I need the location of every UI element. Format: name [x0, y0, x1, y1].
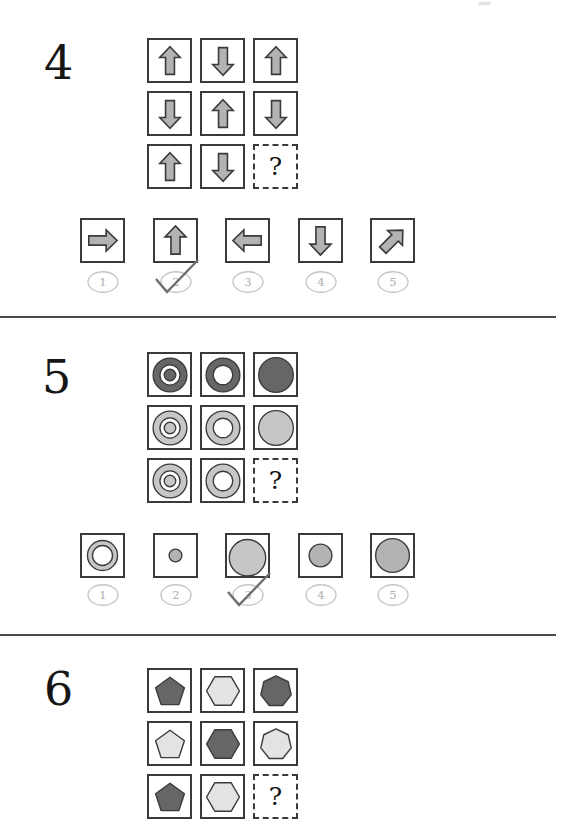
grid-cell-r2c1 — [147, 91, 192, 136]
grid-cell-r3c2 — [200, 458, 245, 503]
hexagon-light-icon — [203, 777, 243, 817]
arrow-down-icon — [203, 41, 243, 81]
question-number: 5 — [42, 354, 71, 400]
hexagon-light-icon — [203, 671, 243, 711]
grid-cell-r1c3 — [253, 38, 298, 83]
option-3-box[interactable] — [225, 533, 270, 578]
hexagon-dark-icon — [203, 724, 243, 764]
grid-cell-r3c1 — [147, 144, 192, 189]
disc-large-light-icon — [227, 535, 268, 576]
heptagon-dark-icon — [256, 671, 296, 711]
option-4-badge[interactable]: 4 — [304, 583, 338, 607]
grid-cell-r3c1 — [147, 774, 192, 819]
option-number: 2 — [172, 275, 179, 289]
option-5-box[interactable] — [370, 533, 415, 578]
disc-medium-icon — [300, 535, 341, 576]
grid-cell-r3c1 — [147, 458, 192, 503]
option-4-badge[interactable]: 4 — [304, 270, 338, 294]
option-number: 4 — [317, 275, 324, 289]
option-number: 5 — [389, 275, 396, 289]
option-3-badge[interactable]: 3 — [231, 270, 265, 294]
arrow-left-icon — [227, 220, 268, 261]
option-3-box[interactable] — [225, 218, 270, 263]
disc-dark-icon — [256, 355, 296, 395]
ring-dark-icon — [203, 355, 243, 395]
grid-cell-r2c2 — [200, 91, 245, 136]
option-number: 4 — [317, 588, 324, 602]
question-mark: ? — [269, 468, 282, 493]
arrow-down-icon — [150, 94, 190, 134]
grid-cell-r1c1 — [147, 38, 192, 83]
grid-cell-r1c1 — [147, 352, 192, 397]
section-divider — [0, 316, 556, 318]
grid-cell-r2c3 — [253, 91, 298, 136]
arrow-up-icon — [256, 41, 296, 81]
missing-cell: ? — [253, 774, 298, 819]
pentagon-dark-icon — [150, 671, 190, 711]
grid-cell-r2c2 — [200, 721, 245, 766]
grid-cell-r1c2 — [200, 38, 245, 83]
question-number: 6 — [44, 666, 73, 712]
option-1-badge[interactable]: 1 — [86, 583, 120, 607]
ring-medium-icon — [82, 535, 123, 576]
pentagon-dark-icon — [150, 777, 190, 817]
arrow-up-icon — [150, 41, 190, 81]
puzzle-grid: ? — [147, 352, 298, 503]
grid-cell-r2c3 — [253, 721, 298, 766]
bullseye-dark-icon — [150, 355, 190, 395]
option-2-badge[interactable]: 2 — [159, 270, 193, 294]
option-1-badge[interactable]: 1 — [86, 270, 120, 294]
arrow-up-icon — [150, 147, 190, 187]
arrow-right-icon — [82, 220, 123, 261]
arrow-down-icon — [203, 147, 243, 187]
puzzle-grid: ? — [147, 668, 298, 819]
grid-cell-r3c2 — [200, 774, 245, 819]
option-4-box[interactable] — [298, 533, 343, 578]
ring-light-icon — [203, 408, 243, 448]
option-2-box[interactable] — [153, 533, 198, 578]
missing-cell: ? — [253, 144, 298, 189]
missing-cell: ? — [253, 458, 298, 503]
pentagon-light-icon — [150, 724, 190, 764]
scan-artifact — [478, 2, 491, 6]
arrow-up-right-icon — [372, 220, 413, 261]
puzzle-grid: ? — [147, 38, 298, 189]
option-1-box[interactable] — [80, 218, 125, 263]
ring-light-icon — [203, 461, 243, 501]
option-2-badge[interactable]: 2 — [159, 583, 193, 607]
option-number: 3 — [244, 275, 251, 289]
grid-cell-r2c3 — [253, 405, 298, 450]
grid-cell-r1c1 — [147, 668, 192, 713]
arrow-down-icon — [256, 94, 296, 134]
grid-cell-r3c2 — [200, 144, 245, 189]
option-2-box[interactable] — [153, 218, 198, 263]
test-page: 4 ? 12345 5 ? 12345 6 ? — [0, 0, 569, 819]
arrow-up-icon — [155, 220, 196, 261]
grid-cell-r2c1 — [147, 721, 192, 766]
option-number: 1 — [99, 275, 106, 289]
grid-cell-r1c3 — [253, 352, 298, 397]
heptagon-light-icon — [256, 724, 296, 764]
grid-cell-r2c1 — [147, 405, 192, 450]
option-1-box[interactable] — [80, 533, 125, 578]
disc-light-icon — [256, 408, 296, 448]
option-number: 3 — [244, 588, 251, 602]
bullseye-light-icon — [150, 408, 190, 448]
disc-large-icon — [372, 535, 413, 576]
grid-cell-r1c2 — [200, 668, 245, 713]
question-mark: ? — [269, 154, 282, 179]
arrow-up-icon — [203, 94, 243, 134]
grid-cell-r1c2 — [200, 352, 245, 397]
grid-cell-r2c2 — [200, 405, 245, 450]
disc-small-icon — [155, 535, 196, 576]
option-3-badge[interactable]: 3 — [231, 583, 265, 607]
option-5-badge[interactable]: 5 — [376, 583, 410, 607]
section-divider — [0, 634, 556, 636]
option-5-box[interactable] — [370, 218, 415, 263]
option-number: 2 — [172, 588, 179, 602]
option-4-box[interactable] — [298, 218, 343, 263]
option-number: 1 — [99, 588, 106, 602]
option-5-badge[interactable]: 5 — [376, 270, 410, 294]
question-number: 4 — [44, 40, 73, 86]
bullseye-light-icon — [150, 461, 190, 501]
